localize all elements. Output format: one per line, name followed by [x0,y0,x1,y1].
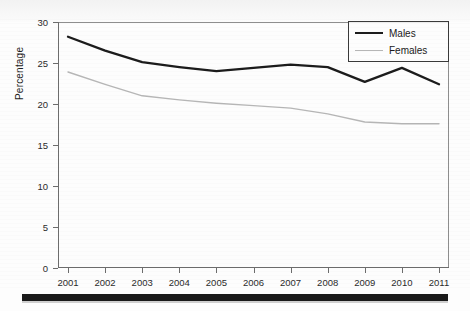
legend-line-swatch-males [355,32,383,34]
x-tick-2010 [402,268,403,273]
x-tick-2004 [179,268,180,273]
x-tick-2003 [142,268,143,273]
x-tick-label-2007: 2007 [280,277,301,288]
chart-page: Percentage 051015202530 2001200220032004… [0,0,470,311]
y-tick-label-15: 15 [37,140,48,151]
x-tick-label-2001: 2001 [57,277,78,288]
y-tick-0 [53,268,58,269]
x-tick-2002 [105,268,106,273]
x-tick-label-2002: 2002 [95,277,116,288]
y-tick-label-30: 30 [37,17,48,28]
x-tick-2009 [365,268,366,273]
x-tick-2007 [291,268,292,273]
x-tick-2011 [439,268,440,273]
y-tick-label-5: 5 [43,222,48,233]
x-tick-label-2008: 2008 [317,277,338,288]
page-footer-rule-shadow [22,301,448,303]
series-line-females [68,72,439,124]
y-tick-label-25: 25 [37,58,48,69]
scan-bleed-band [0,0,470,22]
x-tick-2001 [68,268,69,273]
legend: Males Females [348,21,449,62]
legend-label-males: Males [389,28,416,39]
x-tick-2005 [216,268,217,273]
x-tick-2008 [328,268,329,273]
x-tick-label-2003: 2003 [132,277,153,288]
x-tick-2006 [254,268,255,273]
x-tick-label-2010: 2010 [391,277,412,288]
legend-item-males: Males [349,24,450,42]
y-tick-label-20: 20 [37,99,48,110]
x-tick-label-2011: 2011 [429,277,449,288]
page-footer-rule [22,294,448,301]
y-axis-title: Percentage [14,47,25,100]
x-tick-label-2004: 2004 [169,277,190,288]
x-tick-label-2009: 2009 [354,277,375,288]
legend-item-females: Females [349,41,450,59]
y-tick-label-10: 10 [37,181,48,192]
x-tick-label-2005: 2005 [206,277,227,288]
legend-label-females: Females [389,45,427,56]
x-tick-label-2006: 2006 [243,277,264,288]
y-tick-label-0: 0 [43,263,48,274]
legend-line-swatch-females [355,50,383,51]
